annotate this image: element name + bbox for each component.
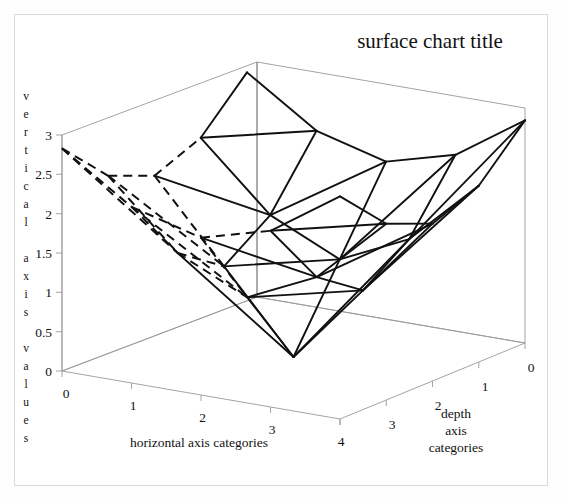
mesh-segment: [201, 131, 317, 138]
horizontal-tick-label-0: 0: [63, 386, 70, 401]
depth-axis-ticks: 0 1 2 3 depth axis categories: [340, 343, 535, 455]
mesh-segment-hidden: [132, 207, 202, 238]
vertical-tick-label-2_5: 2.5: [35, 167, 52, 182]
vertical-tick-label-0: 0: [45, 364, 52, 379]
horizontal-axis-ticks: 0 1 2 3 4 horizontal axis categories: [62, 371, 345, 450]
vaxis-letter-1: e: [23, 108, 28, 120]
mesh-segment: [201, 72, 247, 137]
mesh-segment: [247, 297, 293, 357]
horizontal-axis-label: horizontal axis categories: [130, 435, 268, 450]
vaxis-letter-0: v: [23, 90, 29, 102]
mesh-segment-hidden: [155, 138, 201, 176]
mesh-segment: [479, 120, 525, 185]
vaxis-letter-15: a: [23, 360, 28, 372]
mesh-segment-hidden: [132, 207, 248, 298]
vertical-axis-label: v e r t i c a l a x i s v a l u e s: [23, 90, 29, 444]
mesh-segment: [270, 131, 316, 215]
mesh-segment: [201, 238, 317, 277]
mesh-segment: [270, 215, 340, 259]
mesh-segment: [456, 120, 526, 154]
mesh-segment: [294, 259, 340, 357]
mesh-segment: [270, 162, 386, 215]
mesh-segment: [386, 155, 456, 162]
vaxis-letter-9: a: [23, 252, 28, 264]
vaxis-letter-19: s: [24, 432, 29, 444]
depth-axis-label-line2: axis: [445, 423, 467, 438]
depth-axis-label-line3: categories: [429, 440, 484, 455]
vaxis-letter-17: u: [23, 396, 29, 408]
mesh-segment-hidden: [201, 231, 271, 238]
mesh-segment: [317, 131, 387, 162]
depth-tick-label-0: 0: [528, 360, 535, 375]
vaxis-letter-18: e: [23, 414, 28, 426]
vaxis-letter-7: l: [24, 216, 27, 228]
mesh-segment-hidden: [178, 253, 248, 297]
depth-axis-label-line1: depth: [441, 406, 471, 421]
horizontal-tick-label-3: 3: [269, 422, 276, 437]
vaxis-letter-12: s: [24, 306, 29, 318]
surface-chart-svg: 3 2.5 2 1.5 1 0.5 0 0 1 2 3 4 horizontal…: [0, 0, 562, 504]
depth-tick-label-3: 3: [389, 417, 396, 432]
vertical-tick-label-3: 3: [45, 128, 52, 143]
horizontal-tick-label-1: 1: [130, 398, 137, 413]
vertical-tick-label-0_5: 0.5: [35, 325, 52, 340]
mesh-segment: [178, 253, 294, 357]
chart-page: 3 2.5 2 1.5 1 0.5 0 0 1 2 3 4 horizontal…: [0, 0, 562, 504]
vertical-tick-label-2: 2: [45, 207, 52, 222]
vertical-tick-label-1_5: 1.5: [35, 246, 52, 261]
vaxis-letter-4: i: [24, 162, 27, 174]
horizontal-tick-label-2: 2: [199, 410, 206, 425]
chart-title: surface chart title: [357, 29, 503, 53]
vaxis-letter-6: a: [23, 198, 28, 210]
mesh-segment: [340, 196, 386, 223]
vaxis-letter-16: l: [24, 378, 27, 390]
vaxis-letter-5: c: [23, 180, 28, 192]
mesh-segment-hidden: [62, 148, 178, 253]
chart-walls: [62, 62, 525, 419]
vaxis-letter-11: i: [24, 288, 27, 300]
depth-tick-label-1: 1: [482, 379, 489, 394]
mesh-segment-hidden: [62, 148, 132, 206]
vaxis-letter-10: x: [23, 270, 29, 282]
mesh-segment: [271, 196, 341, 230]
vaxis-letter-14: v: [23, 342, 29, 354]
surface-mesh-hidden-lines: [62, 138, 271, 298]
mesh-segment: [363, 186, 479, 291]
vertical-tick-label-1: 1: [45, 285, 52, 300]
vaxis-letter-3: t: [24, 144, 28, 156]
horizontal-tick-label-4: 4: [338, 434, 345, 449]
mesh-segment-hidden: [62, 148, 108, 175]
vaxis-letter-2: r: [24, 126, 28, 138]
surface-mesh-visible-lines: [155, 72, 526, 357]
vertical-axis-ticks: 3 2.5 2 1.5 1 0.5 0: [35, 128, 62, 379]
mesh-segment: [317, 277, 363, 290]
